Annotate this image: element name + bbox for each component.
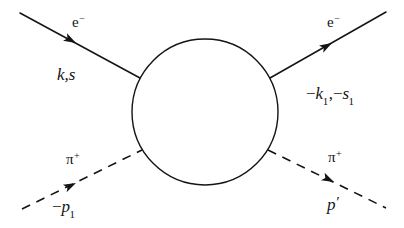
- electron-out-arrowhead: [319, 39, 334, 52]
- electron-out-symbol: e: [327, 14, 334, 30]
- electron-in-symbol: e: [72, 14, 79, 30]
- electron-out-momentum-label: −k1,−s1: [306, 85, 355, 105]
- pion-in-line: [22, 150, 142, 209]
- diagram-canvas: [0, 0, 404, 228]
- pion-in-momentum-label: −p1: [52, 198, 76, 218]
- momentum-p: p: [62, 197, 71, 216]
- interaction-blob: [132, 39, 278, 185]
- electron-in-charge: −: [79, 13, 85, 24]
- electron-in-momentum-label: k,s: [57, 66, 75, 83]
- momentum-s-subscript: 1: [349, 95, 355, 107]
- minus-sign: −: [52, 197, 62, 216]
- pion-out-arrowhead: [321, 173, 336, 186]
- momentum-k-subscript: 1: [323, 95, 329, 107]
- pion-in-arrowhead: [63, 179, 78, 192]
- electron-in-arrowhead: [63, 33, 78, 46]
- pion-out-momentum-label: p′: [327, 196, 339, 213]
- momentum-p-subscript: 1: [70, 208, 76, 220]
- electron-out-charge: −: [334, 13, 340, 24]
- pion-out-symbol: π: [328, 149, 336, 165]
- momentum-p-prime: ′: [336, 194, 339, 210]
- pion-out-particle-label: π+: [328, 148, 341, 165]
- pion-in-charge: +: [74, 150, 80, 161]
- pion-in-symbol: π: [66, 151, 74, 167]
- pion-in-particle-label: π+: [66, 150, 79, 167]
- minus-sign: −: [306, 84, 316, 103]
- feynman-diagram: e− k,s e− −k1,−s1 π+ −p1 π+ p′: [0, 0, 404, 228]
- pion-out-charge: +: [336, 148, 342, 159]
- electron-in-particle-label: e−: [72, 13, 84, 30]
- electron-out-particle-label: e−: [327, 13, 339, 30]
- momentum-p: p: [327, 195, 336, 214]
- momentum-k: k: [316, 84, 324, 103]
